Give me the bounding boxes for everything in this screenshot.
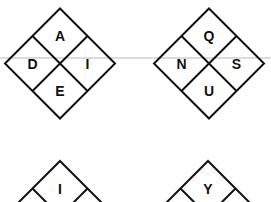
diamond-4: Y	[153, 161, 263, 202]
cell-bottom-letter: E	[55, 83, 64, 99]
diamond-3: I	[5, 161, 115, 202]
cell-bottom-letter: U	[204, 83, 214, 99]
cell-left-letter: D	[27, 56, 37, 72]
diamond-2: Q N S U	[154, 9, 264, 119]
letter-diamond-puzzle: A D I E Q N S U I Y	[0, 0, 271, 202]
diamond-1: A D I E	[5, 9, 115, 119]
cell-top-letter: Q	[204, 28, 215, 44]
cell-right-letter: S	[232, 56, 241, 72]
cell-top-letter: I	[58, 181, 62, 197]
cell-right-letter: I	[86, 56, 90, 72]
cell-left-letter: N	[176, 56, 186, 72]
cell-top-letter: A	[55, 28, 65, 44]
cell-top-letter: Y	[203, 181, 213, 197]
